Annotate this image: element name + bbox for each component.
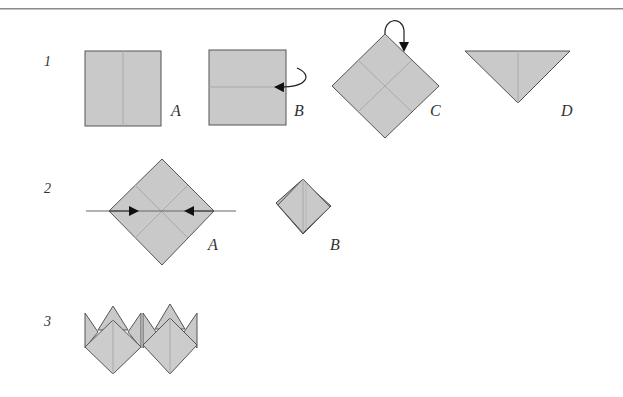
figure-1a-square <box>85 51 161 126</box>
origami-diagram <box>0 0 623 397</box>
figure-1c-diamond <box>332 21 439 138</box>
figure-3-tulip-right <box>143 304 197 374</box>
figure-1b-square <box>209 50 306 125</box>
figure-3-tulip-left <box>85 306 141 374</box>
figure-2b-square-base <box>276 179 331 234</box>
figure-2a-diamond <box>86 159 236 265</box>
figure-1d-triangle <box>465 51 570 103</box>
